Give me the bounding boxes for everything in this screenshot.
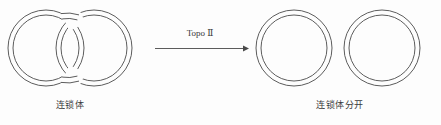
- left-structure-caption: 连锁体: [0, 99, 140, 111]
- separated-ring-1: [256, 10, 332, 86]
- separated-ring-2: [344, 10, 420, 86]
- separated-ring-2-inner: [349, 15, 415, 81]
- separated-rings-group: [256, 10, 420, 86]
- reaction-arrow: [155, 46, 249, 52]
- interlocked-rings-group: [8, 5, 137, 91]
- reaction-arrow-label: Topo Ⅱ: [152, 28, 248, 38]
- catenane-topoisomerase-diagram: Topo Ⅱ 连锁体 连锁体分开: [0, 0, 441, 125]
- separated-ring-2-outer: [344, 10, 420, 86]
- right-structure-caption: 连锁体分开: [252, 99, 428, 111]
- arrow-head-icon: [243, 46, 249, 52]
- separated-ring-1-inner: [261, 15, 327, 81]
- separated-ring-1-outer: [256, 10, 332, 86]
